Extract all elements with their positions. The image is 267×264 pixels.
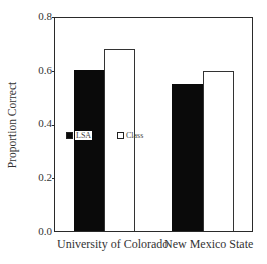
y-tick-mark <box>52 71 55 72</box>
x-category-colorado: University of Colorado <box>57 237 168 252</box>
y-tick-0-2: 0.2 <box>22 172 52 183</box>
legend-label-class: Class <box>126 131 143 140</box>
plot-area <box>54 17 253 232</box>
x-category-nmsu: New Mexico State <box>164 237 253 252</box>
y-tick-0-0: 0.0 <box>22 226 52 237</box>
legend-swatch-class <box>117 132 124 139</box>
bar-chart: Proportion Correct 0.0 0.2 0.4 0.6 0.8 L… <box>0 0 267 264</box>
y-tick-mark <box>52 178 55 179</box>
y-axis-label: Proportion Correct <box>6 60 18 190</box>
bar-nmsu-class <box>203 71 234 231</box>
y-tick-0-4: 0.4 <box>22 118 52 129</box>
legend-label-lsa: LSA <box>75 131 92 140</box>
bar-colorado-class <box>104 49 135 231</box>
legend-swatch-lsa <box>66 132 73 139</box>
legend-item-lsa: LSA <box>66 131 92 140</box>
y-tick-0-6: 0.6 <box>22 65 52 76</box>
bar-nmsu-lsa <box>172 84 203 231</box>
y-tick-0-8: 0.8 <box>22 11 52 22</box>
legend-item-class: Class <box>117 131 143 140</box>
bar-colorado-lsa <box>74 70 105 231</box>
y-tick-mark <box>52 17 55 18</box>
y-tick-mark <box>52 125 55 126</box>
